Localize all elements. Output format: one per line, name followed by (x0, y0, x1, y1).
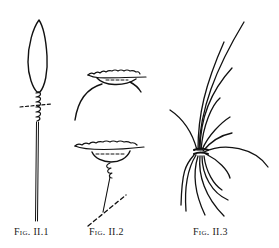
fig-ii-1-drawing (20, 20, 52, 221)
caption-fig-ii-1: Fig. II.1 (14, 226, 49, 237)
line-drawings (0, 0, 279, 248)
fig-ii-3-drawing (170, 22, 268, 216)
fig-ii-2-drawing (75, 70, 146, 226)
figure-plate: Fig. II.1 Fig. II.2 Fig. II.3 (0, 0, 279, 248)
caption-fig-ii-3: Fig. II.3 (193, 226, 228, 237)
caption-fig-ii-2: Fig. II.2 (89, 226, 124, 237)
